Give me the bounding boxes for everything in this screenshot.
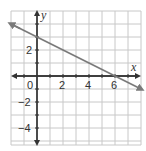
x-tick-label-4: 4 xyxy=(85,79,91,91)
data-line-start-arrow xyxy=(11,24,20,29)
origin-label: 0 xyxy=(27,79,33,91)
x-tick-label-6: 6 xyxy=(111,79,117,91)
y-tick-label-2: 2 xyxy=(26,44,32,56)
y-tick-label-neg2: −2 xyxy=(18,96,31,108)
coordinate-graph: x y 0 2 4 6 2 −2 −4 xyxy=(0,0,146,151)
y-tick-label-neg4: −4 xyxy=(18,122,31,134)
y-axis-label: y xyxy=(40,8,47,22)
x-tick-label-2: 2 xyxy=(59,79,65,91)
x-axis-label: x xyxy=(130,60,137,74)
